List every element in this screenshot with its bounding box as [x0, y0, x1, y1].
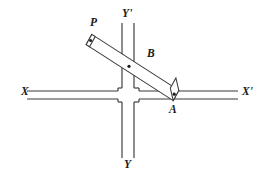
horizontal-axis: [27, 91, 238, 99]
point-dot-p: [89, 39, 92, 42]
axis-label-y-top: Y': [122, 8, 133, 20]
point-dot-b: [127, 65, 130, 68]
point-label-p: P: [90, 17, 97, 29]
geometry-figure: X X' Y' Y P B A: [0, 0, 266, 180]
axis-crossing-corners: [118, 88, 139, 102]
axis-label-x-left: X: [21, 86, 29, 98]
axis-label-y-bottom: Y: [124, 159, 131, 171]
point-label-a: A: [169, 104, 177, 116]
vertical-axis: [122, 23, 134, 158]
point-dot-a: [173, 93, 176, 96]
figure-canvas: [0, 0, 266, 180]
axis-label-x-right: X': [242, 86, 253, 98]
point-label-b: B: [147, 48, 155, 60]
